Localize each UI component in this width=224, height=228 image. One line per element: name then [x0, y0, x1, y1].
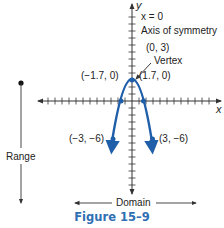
right-intercept-point: [141, 99, 146, 104]
parabola-figure: y x x = 0 Axis of symmetry (0, 3) Vertex…: [0, 0, 224, 228]
y-axis-label: y: [136, 0, 142, 11]
axis-equation-label: x = 0: [141, 12, 163, 22]
x-axis: [38, 98, 221, 105]
x-axis-label: x: [216, 104, 222, 115]
range-indicator: [18, 80, 23, 203]
left-point: [111, 137, 116, 142]
axis-of-symmetry-label: Axis of symmetry: [141, 26, 217, 36]
vertex-coordinate-label: (0, 3): [146, 43, 169, 53]
right-intercept-label: (1.7, 0): [139, 71, 171, 81]
vertex-point: [130, 78, 135, 83]
right-point: [150, 137, 155, 142]
vertex-label: Vertex: [154, 56, 182, 66]
figure-caption: Figure 15–9: [0, 212, 224, 224]
left-intercept-point: [119, 99, 124, 104]
left-point-label: (−3, −6): [69, 134, 104, 144]
right-point-label: (3, −6): [159, 134, 188, 144]
range-label: Range: [6, 152, 35, 162]
left-intercept-label: (−1.7, 0): [81, 71, 119, 81]
domain-label: Domain: [116, 198, 150, 208]
y-axis: [129, 4, 136, 194]
